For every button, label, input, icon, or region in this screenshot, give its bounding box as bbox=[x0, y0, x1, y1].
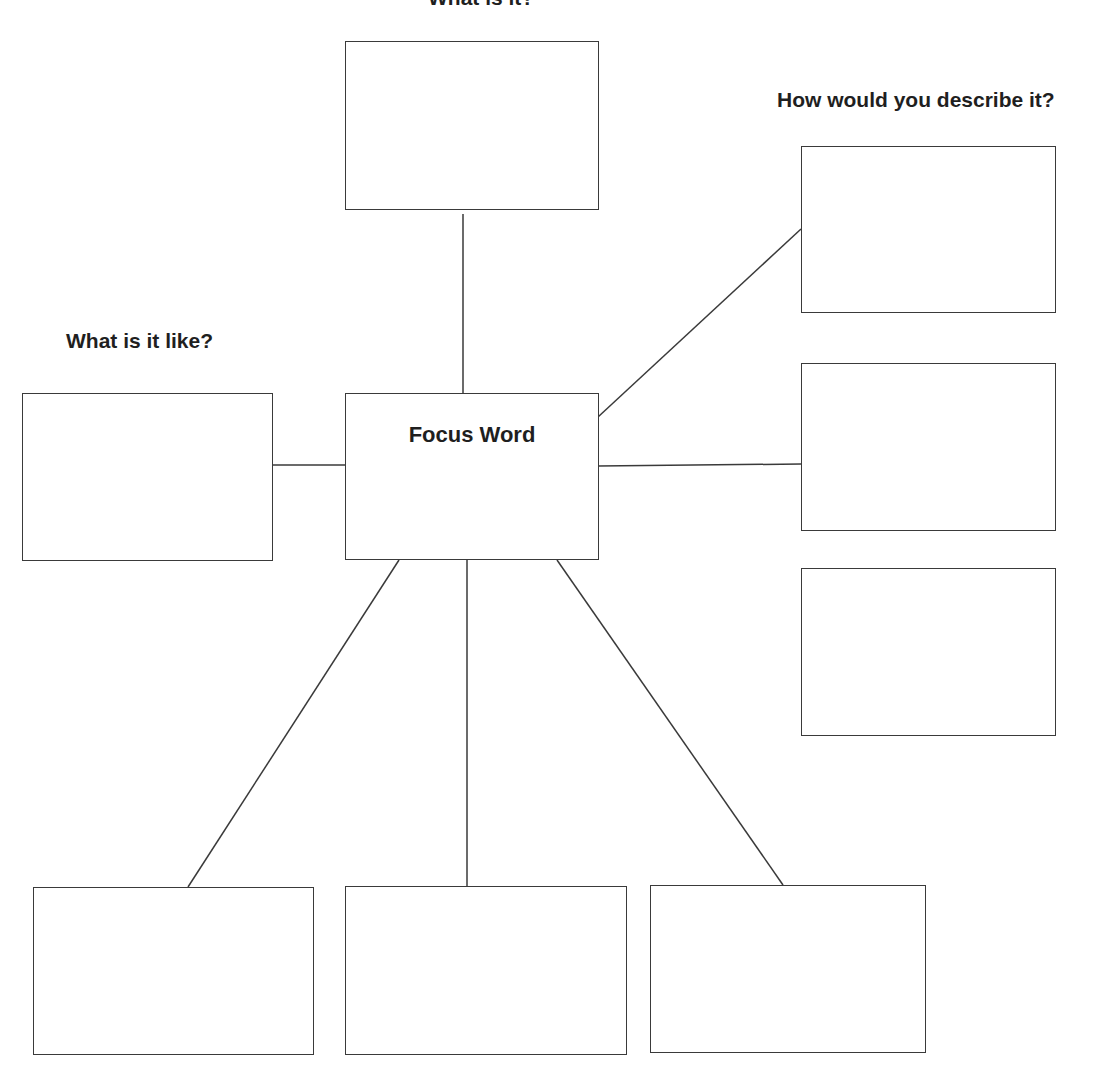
box-left[interactable] bbox=[22, 393, 273, 561]
connector-right-1 bbox=[598, 229, 801, 417]
label-how-would-you-describe: How would you describe it? bbox=[777, 88, 1055, 112]
box-right-2[interactable] bbox=[801, 363, 1056, 531]
focus-word-box[interactable]: Focus Word bbox=[345, 393, 599, 560]
box-top[interactable] bbox=[345, 41, 599, 210]
box-right-3[interactable] bbox=[801, 568, 1056, 736]
box-top-input[interactable] bbox=[352, 48, 592, 203]
label-what-is-it: What is it? bbox=[428, 0, 534, 10]
connector-bottom-1 bbox=[188, 560, 399, 887]
box-bottom-2[interactable] bbox=[345, 886, 627, 1055]
box-right-2-input[interactable] bbox=[808, 370, 1049, 524]
box-right-1-input[interactable] bbox=[808, 153, 1049, 306]
connector-bottom-3 bbox=[557, 560, 783, 885]
box-bottom-2-input[interactable] bbox=[352, 893, 620, 1048]
box-right-1[interactable] bbox=[801, 146, 1056, 313]
box-right-3-input[interactable] bbox=[808, 575, 1049, 729]
label-what-is-it-like: What is it like? bbox=[66, 329, 213, 353]
box-bottom-1[interactable] bbox=[33, 887, 314, 1055]
connector-right-2 bbox=[598, 464, 801, 466]
box-left-input[interactable] bbox=[29, 400, 266, 554]
box-bottom-3-input[interactable] bbox=[657, 892, 919, 1046]
box-bottom-1-input[interactable] bbox=[40, 894, 307, 1048]
box-bottom-3[interactable] bbox=[650, 885, 926, 1053]
focus-word-title: Focus Word bbox=[346, 422, 598, 448]
